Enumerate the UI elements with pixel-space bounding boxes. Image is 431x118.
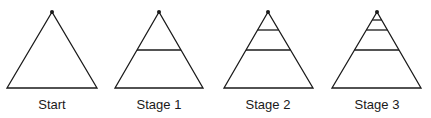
panel-stage-3 [332,10,421,88]
panel-start [7,10,97,88]
apex-dot [266,10,270,14]
label-start: Start [2,97,102,112]
panel-stage-2 [224,10,313,88]
label-stage-1: Stage 1 [109,97,209,112]
apex-dot [50,10,54,14]
label-stage-3: Stage 3 [327,97,427,112]
triangle-outline [7,12,97,88]
apex-dot [375,10,379,14]
apex-dot [157,10,161,14]
label-stage-2: Stage 2 [218,97,318,112]
panel-stage-1 [115,10,203,88]
